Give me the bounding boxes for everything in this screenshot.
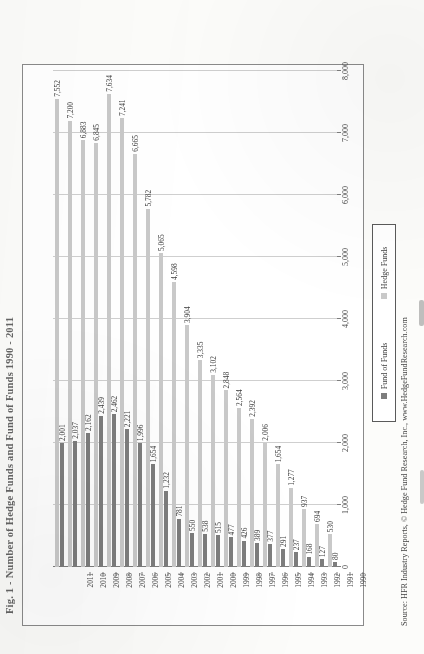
tick-mark <box>311 572 312 576</box>
bar <box>242 541 246 567</box>
bar-group: 80 <box>333 71 337 567</box>
bar <box>229 537 233 567</box>
legend-label: Fund of Funds <box>380 343 389 390</box>
tick-mark <box>337 572 338 576</box>
bar-value-label: 538 <box>201 521 210 534</box>
bar <box>68 121 72 567</box>
tick-mark <box>259 572 260 576</box>
bar <box>146 209 150 567</box>
bar <box>224 390 228 567</box>
bar <box>81 140 85 567</box>
bar-value-label: 2,462 <box>110 396 119 415</box>
year-tick-label: 1990 <box>358 573 367 588</box>
year-tick-label: 2004 <box>176 573 185 588</box>
bar <box>112 414 116 567</box>
bar-group: 168 <box>307 71 311 567</box>
bar-value-label: 2,037 <box>71 422 80 441</box>
value-tick-label: 5,000 <box>341 248 350 266</box>
tick-mark <box>337 194 341 195</box>
tick-mark <box>142 572 143 576</box>
bar-value-label: 1,996 <box>136 425 145 444</box>
legend-item-hedge-funds: Hedge Funds <box>380 247 389 299</box>
year-tick-label: 1996 <box>280 573 289 588</box>
year-tick-label: 2006 <box>150 573 159 588</box>
bar-group: 2,037 <box>73 71 77 567</box>
bar-group: 389 <box>255 71 259 567</box>
bar-value-label: 291 <box>279 536 288 549</box>
value-tick-label: 6,000 <box>341 186 350 204</box>
scan-edge-artifact <box>420 470 424 504</box>
category-axis-labels: 1990199119921993199419951996199719981999… <box>53 569 339 625</box>
bar-value-label: 1,654 <box>149 446 158 465</box>
tick-mark <box>155 572 156 576</box>
bar-value-label: 2,001 <box>58 424 67 443</box>
bar-group: 2,392 <box>250 71 254 567</box>
bar-group: 2,439 <box>99 71 103 567</box>
tick-mark <box>194 572 195 576</box>
bar-group: 7,634 <box>107 71 111 567</box>
bar-value-label: 1,232 <box>162 472 171 491</box>
bar <box>172 282 176 567</box>
value-tick-label: 1,000 <box>341 496 350 514</box>
bar <box>255 543 259 567</box>
tick-mark <box>337 256 341 257</box>
bar <box>73 441 77 567</box>
bar <box>198 360 202 567</box>
bar-value-label: 515 <box>214 522 223 535</box>
bar-group: 477 <box>229 71 233 567</box>
bar <box>177 519 181 567</box>
bar-group: 515 <box>216 71 220 567</box>
year-tick-label: 1998 <box>254 573 263 588</box>
bar <box>289 488 293 567</box>
bar-group: 937 <box>302 71 306 567</box>
rotated-figure-canvas: Fig. 1 - Number of Hedge Funds and Fund … <box>0 0 424 654</box>
bar <box>237 408 241 567</box>
tick-mark <box>116 572 117 576</box>
plot-area: 530806941279371681,2772371,6542912,00637… <box>53 71 339 567</box>
year-tick-label: 2003 <box>189 573 198 588</box>
bar-group: 2,162 <box>86 71 90 567</box>
bar-group: 1,277 <box>289 71 293 567</box>
bar-group: 6,883 <box>81 71 85 567</box>
tick-mark <box>181 572 182 576</box>
year-tick-label: 2001 <box>215 573 224 588</box>
bar-value-label: 377 <box>266 531 275 544</box>
bar <box>307 557 311 567</box>
bar <box>159 253 163 567</box>
bar-value-label: 2,221 <box>123 411 132 430</box>
bar-group: 7,241 <box>120 71 124 567</box>
bar <box>190 533 194 567</box>
bar-value-label: 389 <box>253 530 262 543</box>
bar-group: 1,654 <box>276 71 280 567</box>
bar-group: 694 <box>315 71 319 567</box>
bar-group: 4,598 <box>172 71 176 567</box>
tick-mark <box>337 504 341 505</box>
bar <box>302 509 306 567</box>
legend-item-fund-of-funds: Fund of Funds <box>380 343 389 400</box>
tick-mark <box>337 318 341 319</box>
year-tick-label: 1999 <box>241 573 250 588</box>
bar-group: 2,564 <box>237 71 241 567</box>
tick-mark <box>337 70 341 71</box>
legend-swatch-icon <box>381 293 387 299</box>
bar-group: 3,335 <box>198 71 202 567</box>
tick-mark <box>233 572 234 576</box>
chart-legend: Fund of Funds Hedge Funds <box>372 224 396 422</box>
figure-title: Fig. 1 - Number of Hedge Funds and Fund … <box>4 34 15 614</box>
tick-mark <box>246 572 247 576</box>
bar <box>164 491 168 567</box>
bar <box>263 443 267 567</box>
bar <box>133 154 137 567</box>
year-tick-label: 2010 <box>98 573 107 588</box>
bar <box>216 535 220 567</box>
legend-label: Hedge Funds <box>380 247 389 289</box>
bar-group: 2,006 <box>263 71 267 567</box>
bar-group: 426 <box>242 71 246 567</box>
bar-value-label: 237 <box>292 539 301 552</box>
bar-group: 2,221 <box>125 71 129 567</box>
bar <box>55 99 59 567</box>
bar <box>120 118 124 567</box>
year-tick-label: 2008 <box>124 573 133 588</box>
bar-group: 1,996 <box>138 71 142 567</box>
bar <box>268 544 272 567</box>
